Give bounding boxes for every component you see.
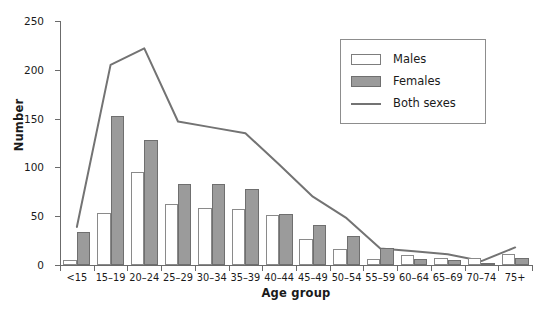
x-axis-tick-label: 55–59 [365,272,395,283]
bar-females [245,189,258,265]
x-axis-tick-mark [431,265,432,271]
bar-females [515,258,528,265]
bar-males [198,208,211,265]
bar-males [131,172,144,265]
legend-item-females: Females [351,70,475,92]
x-axis-tick-mark [195,265,196,271]
chart-legend: Males Females Both sexes [340,39,486,124]
bar-females [77,232,90,265]
bar-females [212,184,225,265]
x-axis-tick-label: 30–34 [197,272,227,283]
bar-males [434,258,447,265]
legend-label-males: Males [393,52,426,66]
bar-females [380,248,393,265]
x-axis-tick-mark [127,265,128,271]
bar-females [448,260,461,265]
x-axis-tick-mark [296,265,297,271]
y-axis-tick-label: 200 [14,64,44,76]
x-axis-tick-label: 15–19 [96,272,126,283]
y-axis-tick-label: 250 [14,15,44,27]
square-open-icon [351,54,381,65]
legend-item-both-sexes: Both sexes [351,92,475,114]
x-axis-tick-label: 60–64 [399,272,429,283]
x-axis-tick-label: 70–74 [467,272,497,283]
bar-males [232,209,245,265]
square-filled-icon [351,76,381,87]
bar-females [313,225,326,265]
bar-females [111,116,124,265]
chart-container: Number 050100150200250 <1515–1920–2425–2… [0,0,548,317]
legend-item-males: Males [351,48,475,70]
x-axis-tick-mark [330,265,331,271]
x-axis-tick-label: 35–39 [231,272,261,283]
bar-females [481,263,494,265]
legend-label-both-sexes: Both sexes [393,96,456,110]
x-axis-tick-mark [94,265,95,271]
x-axis-tick-label: 50–54 [332,272,362,283]
bar-males [367,259,380,265]
x-axis-tick-mark [397,265,398,271]
legend-label-females: Females [393,74,441,88]
x-axis-tick-mark [60,265,61,271]
y-axis-tick-label: 0 [14,259,44,271]
y-axis-tick-labels: 050100150200250 [14,0,44,317]
x-axis-tick-mark [363,265,364,271]
bar-females [347,236,360,265]
bar-females [279,214,292,265]
bar-males [468,258,481,265]
bar-females [144,140,157,265]
x-axis-tick-label: 20–24 [129,272,159,283]
x-axis-tick-label: 25–29 [163,272,193,283]
bar-males [266,215,279,265]
bar-females [414,259,427,265]
bar-males [401,255,414,265]
bar-males [97,213,110,265]
x-axis-tick-label: 75+ [505,272,526,283]
x-axis-tick-label: 40–44 [264,272,294,283]
bar-males [502,254,515,265]
x-axis-title: Age group [60,286,532,300]
x-axis-tick-label: <15 [67,272,88,283]
bar-males [333,249,346,265]
x-axis-tick-mark [229,265,230,271]
y-axis-tick-label: 50 [14,210,44,222]
line-icon [351,98,381,109]
x-axis-tick-mark [498,265,499,271]
bar-males [165,204,178,265]
x-axis-tick-mark [465,265,466,271]
y-axis-tick-label: 100 [14,161,44,173]
y-axis-tick-label: 150 [14,113,44,125]
bar-males [63,260,76,265]
x-axis-tick-mark [262,265,263,271]
x-axis-tick-label: 45–49 [298,272,328,283]
x-axis-tick-mark [161,265,162,271]
x-axis-tick-label: 65–69 [433,272,463,283]
bar-males [299,239,312,265]
bar-females [178,184,191,265]
x-axis-tick-mark [532,265,533,271]
